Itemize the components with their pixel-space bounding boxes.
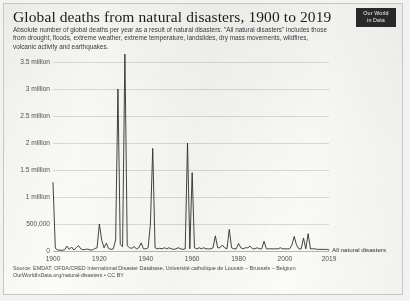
screenshot-page: Global deaths from natural disasters, 19… — [0, 0, 410, 301]
page-title: Global deaths from natural disasters, 19… — [13, 8, 331, 25]
series-label-all-natural-disasters: All natural disasters — [332, 246, 386, 253]
chart-card: Global deaths from natural disasters, 19… — [3, 3, 403, 295]
our-world-in-data-logo[interactable]: Our World in Data — [356, 8, 396, 27]
logo-line-2: in Data — [356, 17, 396, 24]
chart-subtitle: Absolute number of global deaths per yea… — [13, 26, 333, 51]
plot-area — [4, 54, 403, 259]
line-chart: 0500,0001 million1.5 million2 million2.5… — [4, 54, 403, 259]
series-line-all-natural-disasters — [53, 54, 329, 250]
logo-line-1: Our World — [356, 10, 396, 17]
source-line-2: OurWorldInData.org/natural-disasters • C… — [13, 272, 124, 279]
